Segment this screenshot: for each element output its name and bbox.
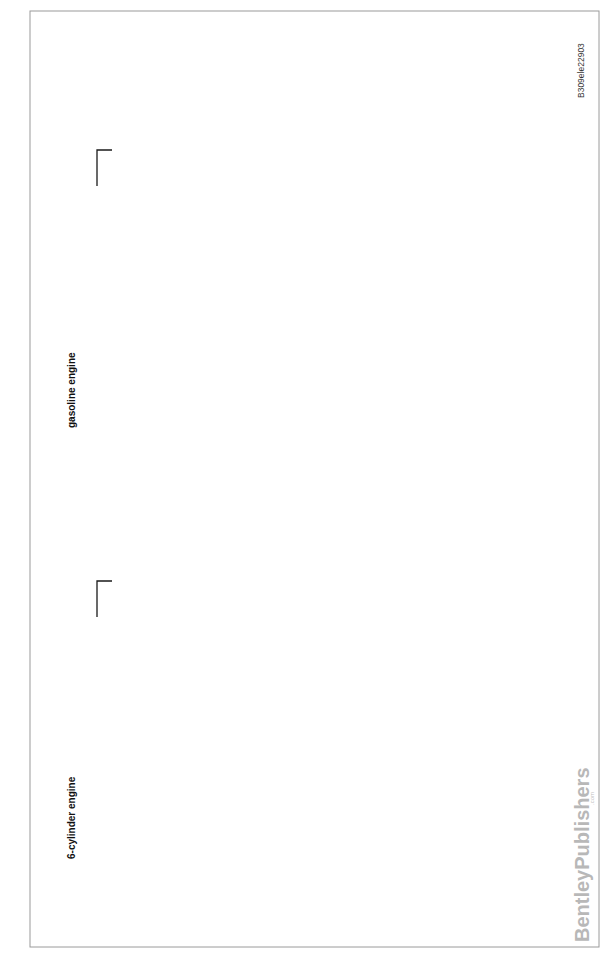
wiring-diagram-page: B309ele22903 BentleyPublishers .com gaso… [0,0,612,968]
diagram-title: 6-cylinder engine [66,776,77,859]
ground-wire: X6402 − + G1 Battery X6406 X1369 I01121 … [97,581,112,617]
ground-wire: X6402 − + G1 Battery X6406 X1369 I01121 … [97,150,112,186]
page-frame [30,11,599,947]
figure-id: B309ele22903 [576,43,586,98]
diagram-title: gasoline engine [66,352,77,428]
watermark-suffix: .com [589,792,595,805]
publisher-watermark: BentleyPublishers .com [571,767,595,942]
diagram-gasoline-engine: gasoline engine X6402 − + G1 Battery X64… [66,150,112,428]
diagram-6-cylinder-engine: 6-cylinder engine X6402 − + G1 Battery X… [66,581,112,859]
